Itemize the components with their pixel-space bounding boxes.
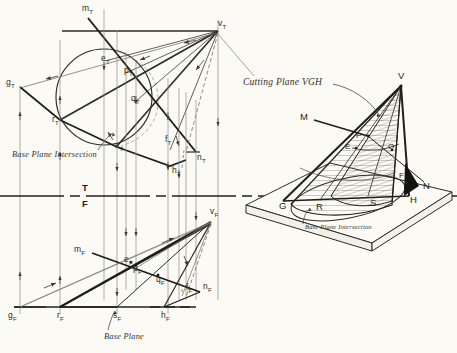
label-e-f: eF xyxy=(124,255,133,266)
label-g-pictorial: G xyxy=(279,200,286,211)
label-p-t: pT xyxy=(124,66,133,77)
fold-label-t: T xyxy=(82,182,88,193)
label-s-t: sT xyxy=(115,141,123,152)
fold-label-f: F xyxy=(82,198,88,209)
leader-cutting-plane-note xyxy=(333,84,380,116)
label-p-pictorial: P xyxy=(356,131,361,140)
label-r-t: rT xyxy=(52,115,59,126)
top-view-group xyxy=(20,18,254,168)
label-n-f: nF xyxy=(203,282,212,293)
label-e-pictorial: E xyxy=(345,142,350,151)
label-q-t: qT xyxy=(131,94,140,105)
figure-canvas: mT vT gT eT pT qT rT sT fT hT nT Base Pl… xyxy=(0,0,457,353)
dash-ft-ht xyxy=(182,150,184,168)
label-f-f: fF xyxy=(186,283,192,294)
label-v-t: vT xyxy=(218,19,226,30)
seg-hf-nf xyxy=(164,292,200,307)
label-g-t: gT xyxy=(6,78,15,89)
label-f-t: fT xyxy=(165,135,171,146)
label-m-t: mT xyxy=(82,4,93,15)
note-base-plane-front: Base Plane xyxy=(104,332,144,341)
label-n-pictorial: N xyxy=(423,180,430,191)
label-o-pictorial: O xyxy=(388,142,394,151)
label-s-pictorial: S xyxy=(370,197,376,208)
label-q-f: qF xyxy=(156,275,165,286)
note-base-plane-intersection-pictorial: Base Plane Intersection xyxy=(305,223,372,230)
label-v-pictorial: V xyxy=(398,70,404,81)
figure-linework xyxy=(0,0,457,353)
label-e-t: eT xyxy=(101,54,110,65)
label-v-f: vF xyxy=(210,207,218,218)
label-h-t: hT xyxy=(172,166,181,177)
label-r-f: rF xyxy=(57,311,64,322)
label-h-pictorial: H xyxy=(410,194,417,205)
label-f-pictorial: F xyxy=(399,171,404,180)
leader-to-cutting-plane-note xyxy=(218,34,254,76)
note-base-plane-intersection-top: Base Plane Intersection xyxy=(12,150,97,159)
label-s-f: sF xyxy=(113,311,121,322)
label-n-t: nT xyxy=(197,153,206,164)
arrow-gf-vf xyxy=(44,283,56,288)
projector-arrows xyxy=(20,62,218,296)
label-p-f: pF xyxy=(133,264,142,275)
line-gt-vt xyxy=(20,33,216,88)
label-r-pictorial: R xyxy=(316,201,323,212)
note-cutting-plane-vgh: Cutting Plane VGH xyxy=(243,77,322,87)
label-m-pictorial: M xyxy=(300,111,308,122)
label-g-f: gF xyxy=(8,311,17,322)
label-h-f: hF xyxy=(161,311,170,322)
dash-vt-nt xyxy=(186,33,218,152)
label-m-f: mF xyxy=(74,245,85,256)
